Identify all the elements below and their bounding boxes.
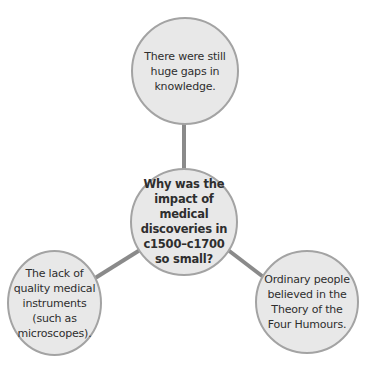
node-gaps-in-knowledge: There were still huge gaps in knowledge. [131,17,239,125]
node-lack-of-instruments: The lack of quality medical instruments … [7,250,102,356]
central-question-node: Why was the impact of medical discoverie… [130,168,238,276]
node-four-humours-belief: Ordinary people believed in the Theory o… [255,250,359,354]
node-text: Ordinary people believed in the Theory o… [261,272,353,332]
node-text: The lack of quality medical instruments … [9,266,100,341]
node-text: There were still huge gaps in knowledge. [144,49,226,94]
central-question-text: Why was the impact of medical discoverie… [136,177,232,267]
